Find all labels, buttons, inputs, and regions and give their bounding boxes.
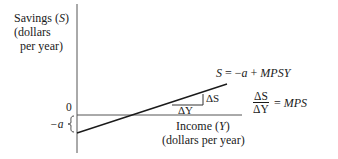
delta-y-label: ΔY [178,104,193,117]
y-axis-label: Savings (S) [14,12,69,25]
y-axis-label-prefix: Savings ( [14,11,59,25]
slope-denominator: ΔY [253,103,269,115]
x-axis-label-suffix: ) [226,119,230,133]
slope-mps: MPS [284,96,307,110]
equation-plus: + [248,66,261,80]
intercept-label: −a [50,118,64,131]
y-axis-label-suffix: ) [65,11,69,25]
slope-eq: = [274,96,284,110]
slope-fraction: ΔS ΔY [253,90,269,115]
equation-eq: = − [222,66,242,80]
x-axis-variable: Y [219,119,226,133]
slope-rhs: = MPS [274,97,307,110]
intercept-brace [68,116,74,132]
y-axis-units-line1: (dollars [14,26,51,39]
delta-s-label: ΔS [206,92,219,105]
savings-equation: S = −a + MPSY [216,67,290,80]
origin-label: 0 [66,101,72,114]
x-axis-label-prefix: Income ( [176,119,219,133]
x-axis-units: (dollars per year) [162,134,245,147]
equation-rhs: MPSY [260,66,290,80]
y-axis-units-line2: per year) [20,40,63,53]
slope-numerator: ΔS [253,90,269,103]
x-axis-label: Income (Y) [176,120,230,133]
